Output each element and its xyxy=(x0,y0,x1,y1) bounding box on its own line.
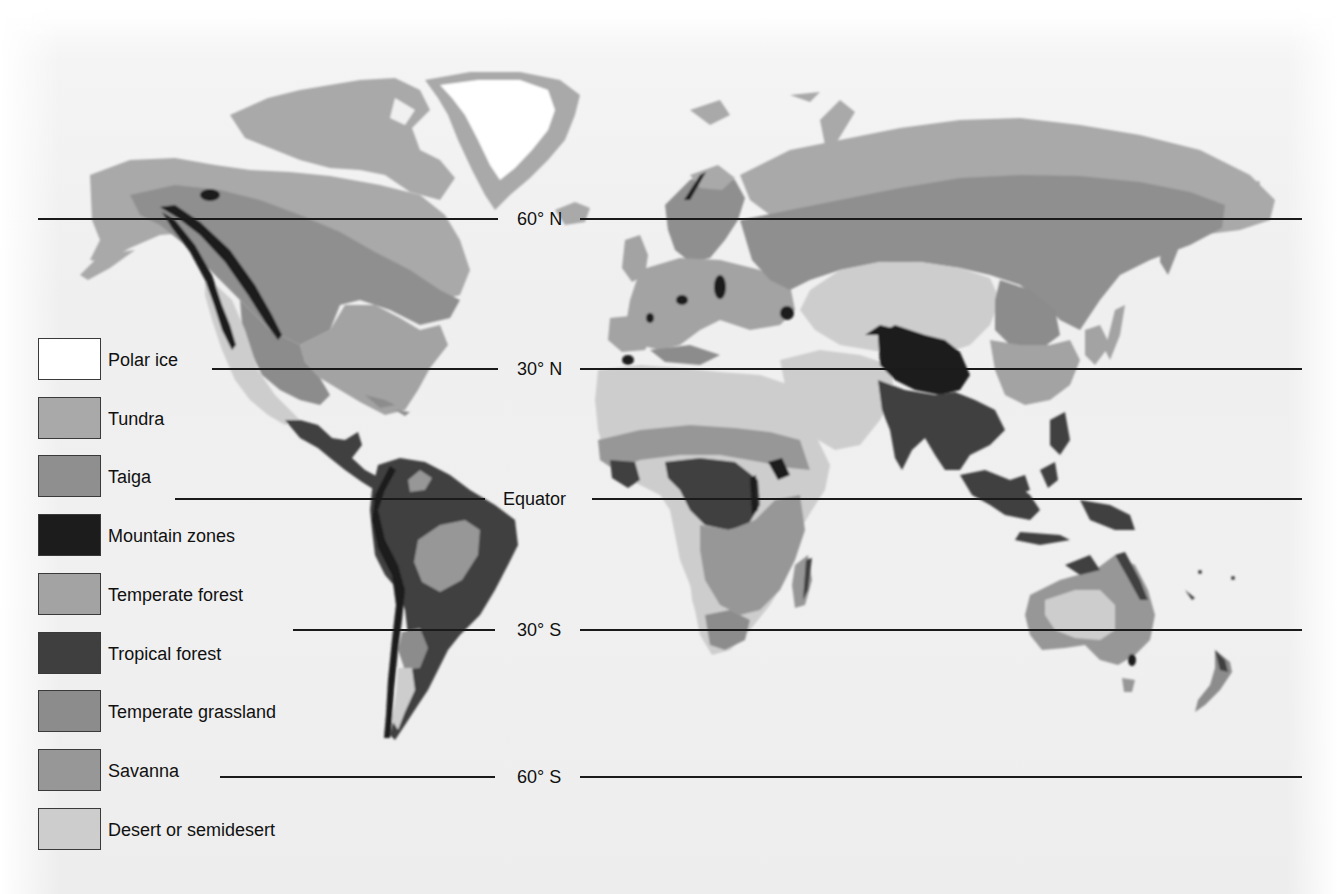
swatch-polar-ice xyxy=(38,338,101,380)
legend-label: Savanna xyxy=(108,761,179,782)
latitude-label-equator: Equator xyxy=(503,489,566,509)
legend-label: Taiga xyxy=(108,467,151,488)
legend-item-temperate-forest: Temperate forest xyxy=(38,573,358,617)
legend-item-desert: Desert or semidesert xyxy=(38,808,358,852)
region-new-zealand xyxy=(1195,650,1232,712)
legend-item-tropical-forest: Tropical forest xyxy=(38,632,358,676)
legend-label: Tundra xyxy=(108,409,164,430)
right-edge-fade xyxy=(1287,0,1337,894)
latitude-label-60n: 60° N xyxy=(517,209,562,229)
legend-label: Tropical forest xyxy=(108,644,221,665)
legend-item-savanna: Savanna xyxy=(38,749,358,793)
legend-item-polar-ice: Polar ice xyxy=(38,338,358,382)
swatch-temperate-grassland xyxy=(38,690,101,732)
region-east-asia-forest xyxy=(990,340,1080,405)
legend-item-mountain-zones: Mountain zones xyxy=(38,514,358,558)
top-edge-fade xyxy=(0,0,1337,40)
latitude-label-30n: 30° N xyxy=(517,359,562,379)
swatch-desert xyxy=(38,808,101,850)
legend-label: Temperate grassland xyxy=(108,702,276,723)
swatch-tundra xyxy=(38,397,101,439)
swatch-tropical-forest xyxy=(38,632,101,674)
legend-label: Polar ice xyxy=(108,350,178,371)
swatch-savanna xyxy=(38,749,101,791)
latitude-label-60s: 60° S xyxy=(517,767,561,787)
region-africa-tropical xyxy=(610,460,640,488)
legend-item-taiga: Taiga xyxy=(38,455,358,499)
legend-item-tundra: Tundra xyxy=(38,397,358,441)
swatch-taiga xyxy=(38,455,101,497)
legend-label: Mountain zones xyxy=(108,526,235,547)
region-indonesia xyxy=(960,470,1040,520)
legend-item-temperate-grassland: Temperate grassland xyxy=(38,690,358,734)
legend-label: Temperate forest xyxy=(108,585,243,606)
swatch-temperate-forest xyxy=(38,573,101,615)
latitude-label-30s: 30° S xyxy=(517,620,561,640)
legend-label: Desert or semidesert xyxy=(108,820,275,841)
swatch-mountain-zones xyxy=(38,514,101,556)
